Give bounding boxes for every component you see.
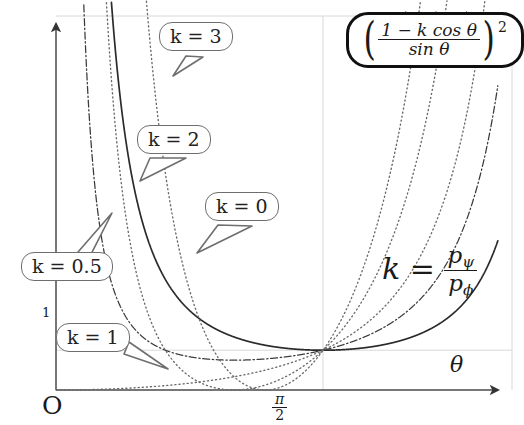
callout-k-1[interactable]: k = 1: [56, 323, 130, 352]
callout-k-0point5[interactable]: k = 0.5: [21, 252, 113, 281]
formula-exponent: 2: [498, 19, 507, 35]
formula-fraction: 1 − k cos θsin θ: [378, 21, 480, 58]
callout-tail-k2: [140, 158, 186, 181]
callout-k-2[interactable]: k = 2: [137, 125, 211, 154]
k-ratio-fraction: pψ pϕ: [444, 243, 477, 299]
formula-close-paren: ): [482, 22, 494, 56]
formula-open-paren: (: [363, 22, 375, 56]
k-ratio-equals: =: [410, 251, 435, 286]
callout-tail-k3: [173, 56, 203, 76]
callout-k-2-label: k = 2: [148, 128, 200, 150]
k-ratio-lhs: k: [382, 251, 400, 286]
k-ratio-numerator: pψ: [444, 243, 477, 271]
callout-k-3[interactable]: k = 3: [159, 22, 233, 51]
origin-label: O: [42, 391, 63, 420]
k-ratio-denominator: pϕ: [444, 271, 477, 298]
formula-box: (1 − k cos θsin θ)2: [346, 12, 524, 68]
x-tick-label-pi-over-2: π 2: [272, 392, 287, 423]
k-ratio-label: k = pψ pϕ: [382, 243, 477, 299]
y-tick-label-1: 1: [42, 305, 50, 320]
x-axis-label: θ: [450, 352, 463, 377]
callout-tail-k1: [124, 342, 168, 369]
formula-denominator: sin θ: [378, 40, 480, 58]
callout-k-0[interactable]: k = 0: [205, 192, 279, 221]
callout-k-1-label: k = 1: [67, 326, 119, 348]
pi-over-2-fraction: π 2: [272, 392, 287, 423]
callout-k-0-label: k = 0: [216, 195, 268, 217]
formula-numerator: 1 − k cos θ: [378, 21, 480, 40]
callout-k-3-label: k = 3: [170, 25, 222, 47]
callout-tail-k0: [197, 225, 252, 253]
callout-k-0point5-label: k = 0.5: [32, 255, 102, 277]
